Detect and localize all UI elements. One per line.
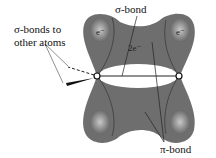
carbon-atom-right	[176, 73, 182, 79]
label-electron-left: e⁻	[96, 27, 105, 37]
electron-lobe-bottom-right	[170, 110, 190, 134]
carbon-atom-left	[94, 73, 100, 79]
pointer-wedge	[45, 44, 63, 83]
label-sigma-bonds-other-1: σ-bonds to	[14, 23, 61, 35]
label-two-electrons: 2e⁻	[128, 43, 141, 53]
label-electron-right: e⁻	[176, 27, 185, 37]
label-pi-bond: π-bond	[160, 143, 191, 155]
label-sigma-bond: σ-bond	[115, 3, 147, 15]
sigma-bond-wedge	[66, 78, 94, 86]
sigma-bond-dashed	[68, 67, 94, 75]
electron-lobe-bottom-left	[90, 110, 110, 134]
label-sigma-bonds-other-2: other atoms	[14, 36, 66, 48]
